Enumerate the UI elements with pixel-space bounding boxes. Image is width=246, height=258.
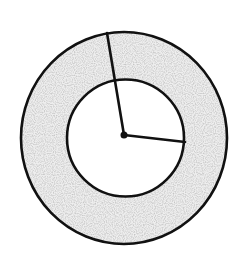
center-point <box>121 132 128 139</box>
annulus-diagram <box>0 0 246 258</box>
